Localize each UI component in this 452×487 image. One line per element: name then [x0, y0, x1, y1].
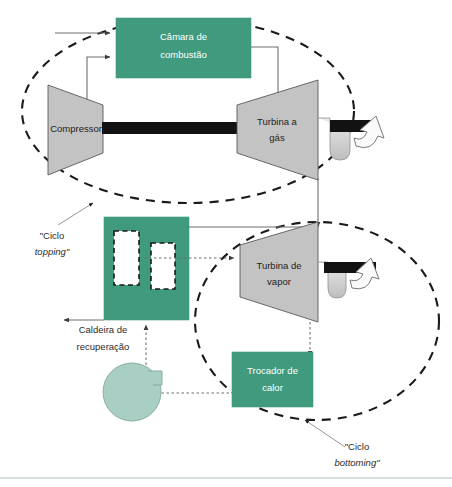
pump-block [103, 363, 162, 421]
flow-compressor-to-chamber [87, 57, 110, 100]
topping-cycle-caption: "Ciclo topping" [35, 203, 93, 257]
compressor-block: Compressor [48, 85, 103, 175]
steam-turbine-label-line2: vapor [267, 276, 291, 287]
combustion-chamber-label-line2: combustão [160, 49, 206, 60]
gas-turbine-label-line2: gás [269, 132, 285, 143]
topping-caption-line1: "Ciclo [40, 230, 65, 241]
topping-caption-line2: topping" [35, 246, 70, 257]
steam-turbine-shaft-generator [318, 258, 379, 298]
diagram-canvas: Câmara de combustão Compressor Turbina a… [0, 0, 452, 487]
combined-cycle-diagram: Câmara de combustão Compressor Turbina a… [0, 0, 452, 487]
recovery-boiler-block [104, 217, 189, 320]
heat-exchanger-label-line1: Trocador de [247, 365, 298, 376]
gas-turbine-shaft [102, 122, 238, 134]
bottoming-caption-line1: "Ciclo [345, 441, 370, 452]
topping-caption-leader [58, 203, 93, 225]
heat-exchanger-label-line2: calor [262, 382, 283, 393]
combustion-chamber-block: Câmara de combustão [116, 18, 251, 78]
gas-turbine-body [237, 80, 318, 180]
gas-turbine-label-line1: Turbina a [257, 116, 297, 127]
bottoming-caption-leader [305, 420, 345, 447]
bottoming-caption-line2: bottoming" [334, 457, 380, 468]
compressor-label: Compressor [50, 123, 102, 134]
heat-exchanger-block: Trocador de calor [232, 352, 313, 407]
bottoming-cycle-caption: "Ciclo bottoming" [305, 420, 380, 468]
boiler-tube-1 [114, 231, 139, 285]
steam-turbine-label-line1: Turbina de [256, 260, 301, 271]
recovery-boiler-label-line1: Caldeira de [79, 324, 128, 335]
recovery-boiler-caption: Caldeira de recuperação [77, 324, 130, 352]
recovery-boiler-label-line2: recuperação [77, 341, 130, 352]
heat-exchanger-body [232, 352, 313, 407]
gas-turbine-block: Turbina a gás [237, 80, 318, 180]
gas-turbine-shaft-generator [318, 116, 384, 160]
combustion-chamber-label-line1: Câmara de [160, 31, 207, 42]
boiler-tube-2 [151, 243, 175, 289]
